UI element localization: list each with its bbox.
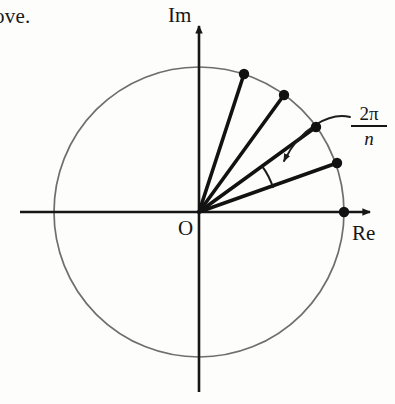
ray-4 [199,74,244,212]
root-point-1 [332,158,342,168]
fraction-bar [351,125,387,127]
fraction-denominator: n [348,129,390,148]
fraction-numerator: 2π [348,104,390,124]
root-point-0 [339,207,349,217]
angle-fraction-label: 2π n [348,104,390,148]
root-point-3 [279,90,289,100]
complex-plane-figure: Im Re O [0,0,395,404]
root-point-4 [239,69,249,79]
angle-arc [262,166,273,188]
ray-1 [199,163,337,212]
origin-label: O [178,216,193,240]
figure-page: ove. Im Re [0,0,395,404]
imaginary-axis-label: Im [168,3,191,27]
root-point-2 [311,122,321,132]
ray-3 [199,95,284,212]
real-axis-label: Re [352,221,375,245]
